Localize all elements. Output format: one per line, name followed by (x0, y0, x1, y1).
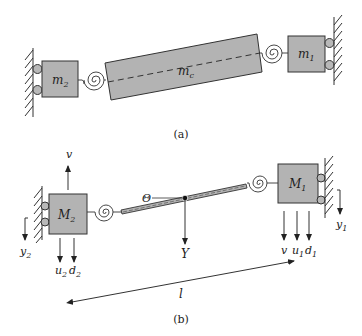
d1-label: d1 (305, 244, 317, 259)
left-wall (34, 186, 42, 243)
right-wall (334, 15, 342, 85)
right-wall (325, 156, 333, 218)
caption-a: (a) (173, 128, 188, 141)
y2-label: y2 (19, 245, 31, 260)
roller-icon (41, 218, 49, 226)
y2-displacement-arrow (25, 218, 28, 240)
torsion-spring-icon (260, 45, 288, 63)
torsion-spring-icon (78, 72, 106, 90)
length-label: l (179, 287, 183, 301)
panel-a: m2 mc m1 (25, 15, 342, 141)
panel-b: y2 M2 v u2 d2 Θ Y (19, 148, 347, 326)
y1-displacement-arrow (337, 190, 340, 214)
u2-label: u2 (55, 264, 67, 279)
left-wall (25, 48, 33, 117)
roller-icon (41, 202, 49, 210)
y1-label: y1 (335, 218, 347, 233)
roller-icon (317, 196, 325, 204)
roller-icon (325, 61, 334, 70)
d2-label: d2 (69, 264, 81, 279)
u1-label: u1 (292, 244, 304, 259)
v-down-label: v (281, 244, 288, 257)
Y-label: Y (181, 247, 190, 261)
roller-icon (325, 39, 334, 48)
v-up-label: v (66, 148, 73, 161)
theta-label: Θ (142, 192, 151, 205)
caption-b: (b) (173, 313, 189, 326)
roller-icon (33, 65, 42, 74)
length-arrow (72, 261, 294, 302)
torsion-spring-icon (87, 205, 122, 221)
diagram: m2 mc m1 (0, 0, 362, 336)
roller-icon (317, 174, 325, 182)
roller-icon (33, 86, 42, 95)
torsion-spring-icon (247, 176, 278, 192)
